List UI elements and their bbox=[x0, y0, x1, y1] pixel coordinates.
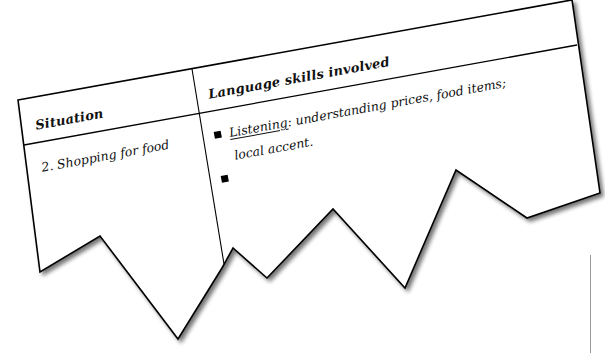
black-square-bullet-icon bbox=[214, 131, 222, 139]
torn-table-figure: Situation Language skills involved 2. Sh… bbox=[0, 0, 605, 353]
torn-paper-table-frame bbox=[0, 0, 605, 353]
page-edge-line bbox=[590, 255, 591, 353]
skill-bullet-2 bbox=[220, 169, 237, 186]
black-square-bullet-icon bbox=[221, 175, 229, 183]
torn-paper-shape bbox=[18, 0, 600, 339]
